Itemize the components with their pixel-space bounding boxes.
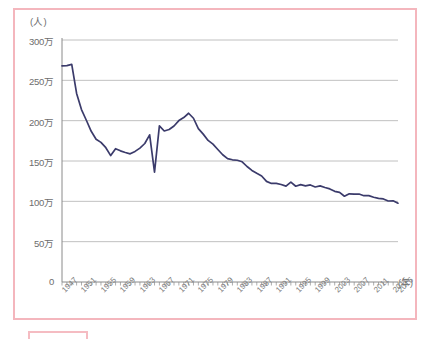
births-line-chart bbox=[0, 0, 430, 341]
birth-count-series-line bbox=[62, 64, 398, 203]
gridlines bbox=[62, 40, 398, 242]
x-axis-ticks bbox=[62, 282, 398, 286]
